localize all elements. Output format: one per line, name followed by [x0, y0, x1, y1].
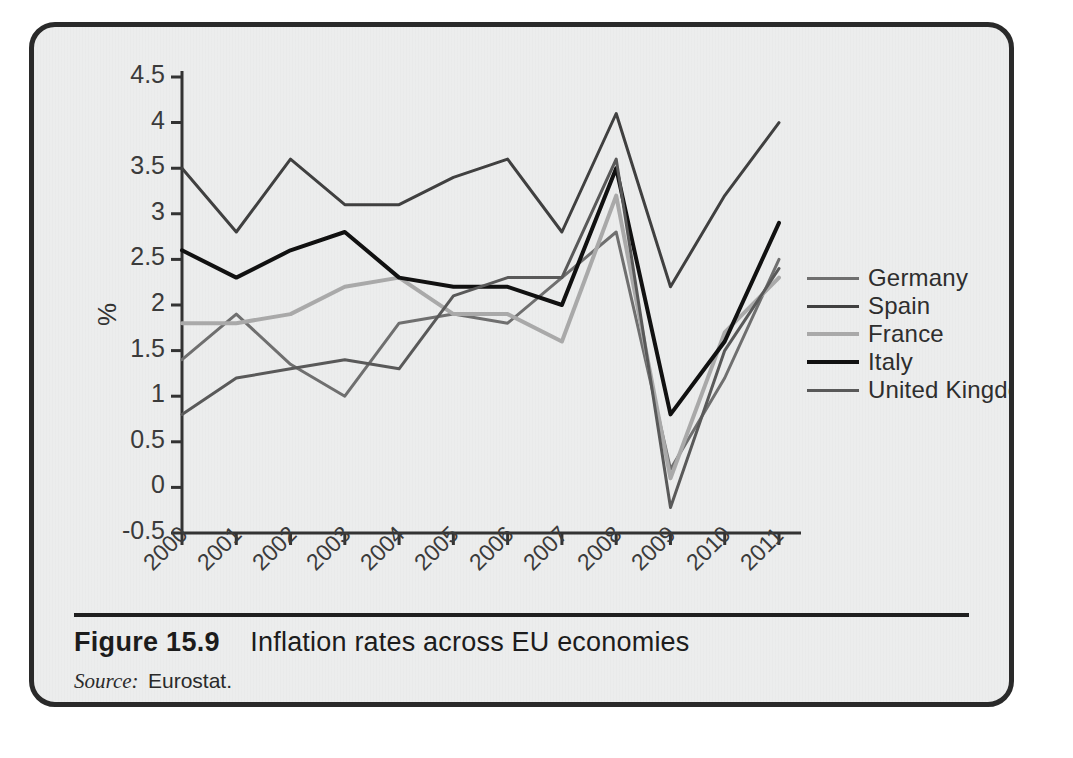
y-axis-tick-label: 3.5 [95, 151, 165, 180]
legend-item-italy: Italy [807, 348, 1014, 376]
legend-item-france: France [807, 320, 1014, 348]
legend-label: Spain [868, 292, 930, 320]
series-line-united-kingdom [182, 159, 779, 507]
y-axis-tick-label: 1.5 [95, 334, 165, 363]
caption-divider-rule [74, 613, 969, 617]
series-group [182, 114, 779, 508]
axes-group [171, 71, 801, 545]
legend-color-swatch [807, 277, 859, 280]
legend-color-swatch [807, 360, 859, 364]
legend-label: Germany [868, 264, 968, 292]
legend-color-swatch [807, 305, 859, 308]
figure-title: Inflation rates across EU economies [250, 627, 689, 657]
legend-item-germany: Germany [807, 264, 1014, 292]
y-axis-tick-label: 0.5 [95, 425, 165, 454]
series-line-italy [182, 168, 779, 414]
source-label: Source: [74, 669, 139, 693]
y-axis-tick-label: 4 [95, 106, 165, 135]
y-axis-tick-label: 4.5 [95, 60, 165, 89]
legend-item-spain: Spain [807, 292, 1014, 320]
legend-label: Italy [868, 348, 913, 376]
legend-item-united-kingdom: United Kingdom [807, 376, 1014, 404]
chart-legend: GermanySpainFranceItalyUnited Kingdom [807, 264, 1014, 404]
legend-color-swatch [807, 332, 859, 336]
series-line-germany [182, 232, 779, 469]
figure-number: Figure 15.9 [74, 627, 220, 657]
figure-caption: Figure 15.9 Inflation rates across EU ec… [74, 627, 974, 658]
y-axis-tick-label: 3 [95, 197, 165, 226]
legend-label: United Kingdom [868, 376, 1014, 404]
y-axis-tick-label: 2 [95, 288, 165, 317]
legend-label: France [868, 320, 944, 348]
figure-panel: % -0.500.511.522.533.544.5 2000200120022… [29, 22, 1014, 707]
legend-color-swatch [807, 389, 859, 392]
y-axis-tick-label: 0 [95, 470, 165, 499]
y-axis-tick-label: 2.5 [95, 242, 165, 271]
figure-source: Source: Eurostat. [74, 669, 232, 694]
scanned-textbook-page: % -0.500.511.522.533.544.5 2000200120022… [0, 0, 1073, 758]
line-chart: % -0.500.511.522.533.544.5 2000200120022… [34, 27, 1009, 702]
y-axis-tick-label: 1 [95, 379, 165, 408]
source-value: Eurostat. [148, 669, 232, 692]
